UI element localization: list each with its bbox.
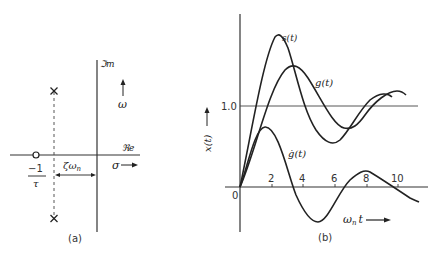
y-axis-label: x(t) (202, 134, 213, 152)
zero-label-denominator: τ (33, 178, 39, 189)
curve-label-g: g(t) (315, 77, 333, 88)
x-tick-6: 6 (331, 173, 337, 184)
imag-axis-label: ℑm (100, 59, 115, 69)
pole-lower-icon (51, 215, 58, 222)
x-axis-label: ωnt (343, 213, 364, 227)
panel-a-caption: (a) (68, 233, 82, 244)
damping-arrowhead-left-icon (55, 173, 60, 177)
omega-label: ω (118, 98, 127, 111)
reference-line-label: 1.0 (221, 101, 237, 112)
sigma-label: σ (112, 159, 120, 172)
curve-s (240, 35, 392, 187)
damping-distance-label: ζωn (63, 160, 82, 173)
real-axis-label: ℜe (122, 143, 134, 153)
panel-b-caption: (b) (318, 232, 332, 243)
zero-icon (33, 152, 39, 158)
omega-arrowhead-icon (121, 79, 126, 85)
x-axis-arrowhead-icon (384, 218, 391, 223)
x-tick-8: 8 (363, 173, 369, 184)
curve-label-s: s(t) (282, 33, 298, 43)
panel-a-pole-zero-plot: ℑm ℜe ω σ −1 τ ζωn (a) (10, 59, 140, 244)
curve-label-g-dot: ġ(t) (288, 148, 306, 159)
damping-arrowhead-right-icon (91, 173, 96, 177)
panel-b-time-response-plot: 2 4 6 8 10 0 1.0 x(t) ωnt s(t) g(t) ġ(t)… (202, 14, 428, 243)
x-tick-4: 4 (299, 173, 305, 184)
figure: ℑm ℜe ω σ −1 τ ζωn (a) 2 4 6 8 10 (0, 0, 439, 255)
x-tick-2: 2 (268, 173, 274, 184)
origin-label: 0 (232, 190, 238, 201)
x-tick-10: 10 (391, 173, 404, 184)
sigma-arrowhead-icon (132, 163, 138, 168)
y-axis-arrowhead-icon (205, 107, 210, 113)
zero-label-numerator: −1 (28, 163, 43, 174)
